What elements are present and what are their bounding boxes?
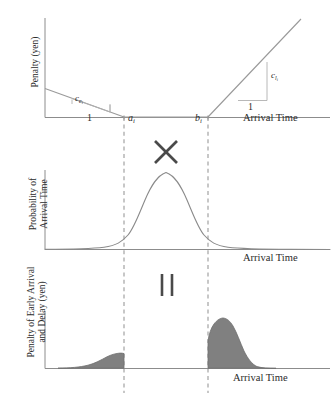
tardiness-cost-label: cli — [271, 71, 278, 83]
product-x-axis-label: Arrival Time — [233, 372, 288, 383]
multiply-operator-glyph — [155, 141, 177, 163]
probability-y-axis-label-line1: Probability of — [28, 156, 39, 252]
x-tick-label-a: ai — [128, 113, 135, 124]
product-y-axis-label-line2: and Delay (yen) — [37, 242, 48, 382]
penalty-y-axis-label: Penalty (yen) — [30, 12, 40, 112]
guide-lines — [124, 117, 208, 393]
earliness-run-label: 1 — [87, 113, 92, 124]
panel-arrival-probability — [45, 170, 330, 250]
probability-y-axis-label: Probability of Arrival Time — [28, 156, 50, 252]
delay-penalty-area — [208, 318, 276, 368]
product-y-axis-label-line1: Penalty of Early Arrival — [26, 242, 37, 382]
panel-penalty-product — [45, 311, 330, 369]
penalty-x-axis-label: Arrival Time — [243, 112, 298, 123]
probability-x-axis-label: Arrival Time — [243, 252, 298, 263]
probability-y-axis-label-line2: Arrival Time — [39, 156, 50, 252]
earliness-cost-label: cei — [75, 94, 83, 106]
panel-penalty-function — [45, 18, 330, 120]
early-arrival-penalty-area — [58, 353, 124, 368]
arrival-probability-curve — [45, 173, 330, 250]
equals-operator-glyph — [162, 274, 172, 296]
x-tick-label-b: bi — [195, 113, 202, 124]
product-y-axis-label: Penalty of Early Arrival and Delay (yen) — [26, 242, 48, 382]
figure-container: Penalty (yen) cei 1 ai bi cli 1 Arrival … — [0, 0, 336, 414]
penalty-y-axis-label-line1: Penalty (yen) — [30, 37, 40, 88]
